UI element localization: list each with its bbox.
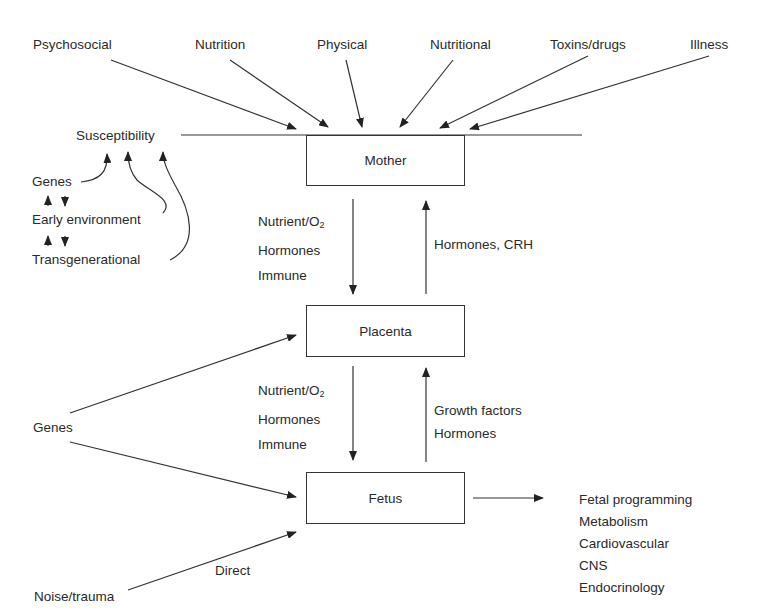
arrow-physical [346, 60, 362, 127]
node-fetus: Fetus [306, 472, 465, 524]
arrow-noise-fetus [128, 532, 296, 590]
arrow-psychosocial [111, 60, 296, 129]
arrow-toxins [440, 56, 588, 128]
source-early-environment: Early environment [32, 212, 141, 228]
label-o2-subscript: 2 [320, 389, 325, 399]
label-growth-factors: Growth factors [434, 399, 522, 422]
label-hormones: Hormones [258, 238, 325, 263]
mother-to-placenta-labels: Nutrient/O2 Hormones Immune [258, 209, 325, 288]
outcome-item: Metabolism [579, 511, 692, 533]
label-hormones: Hormones [258, 407, 325, 432]
influence-toxins-drugs: Toxins/drugs [550, 37, 626, 53]
genes-label: Genes [33, 420, 73, 436]
label-nutrient: Nutrient/O [258, 383, 320, 398]
label-o2-subscript: 2 [320, 220, 325, 230]
outcome-item: Endocrinology [579, 577, 692, 599]
influence-physical: Physical [317, 37, 367, 53]
outcome-title: Fetal programming [579, 489, 692, 511]
direct-label: Direct [215, 563, 250, 579]
noise-trauma-label: Noise/trauma [34, 589, 114, 605]
susceptibility-label: Susceptibility [76, 128, 155, 144]
influence-psychosocial: Psychosocial [33, 37, 112, 53]
arrow-illness [470, 56, 709, 129]
arrow-nutrition [230, 60, 328, 127]
node-fetus-label: Fetus [369, 491, 403, 506]
label-hormones: Hormones [434, 422, 522, 445]
curve-genes [81, 154, 107, 182]
node-placenta-label: Placenta [359, 324, 412, 339]
source-transgenerational: Transgenerational [32, 252, 140, 268]
influence-nutritional: Nutritional [430, 37, 491, 53]
fetus-to-placenta-labels: Growth factors Hormones [434, 399, 522, 445]
outcomes-list: Fetal programming Metabolism Cardiovascu… [579, 489, 692, 599]
label-nutrient: Nutrient/O [258, 214, 320, 229]
diagram-canvas: Psychosocial Nutrition Physical Nutritio… [0, 0, 763, 611]
outcome-item: CNS [579, 555, 692, 577]
placenta-to-mother-label: Hormones, CRH [434, 237, 533, 253]
placenta-to-fetus-labels: Nutrient/O2 Hormones Immune [258, 378, 325, 457]
influence-illness: Illness [690, 37, 728, 53]
label-immune: Immune [258, 432, 325, 457]
influence-nutrition: Nutrition [195, 37, 245, 53]
node-mother: Mother [306, 135, 465, 186]
arrow-nutritional [400, 60, 453, 127]
node-mother-label: Mother [364, 153, 406, 168]
node-placenta: Placenta [306, 305, 465, 357]
curve-transgenerational [163, 152, 189, 260]
source-genes: Genes [32, 174, 72, 190]
outcome-item: Cardiovascular [579, 533, 692, 555]
curve-early-env [128, 152, 166, 213]
label-immune: Immune [258, 263, 325, 288]
